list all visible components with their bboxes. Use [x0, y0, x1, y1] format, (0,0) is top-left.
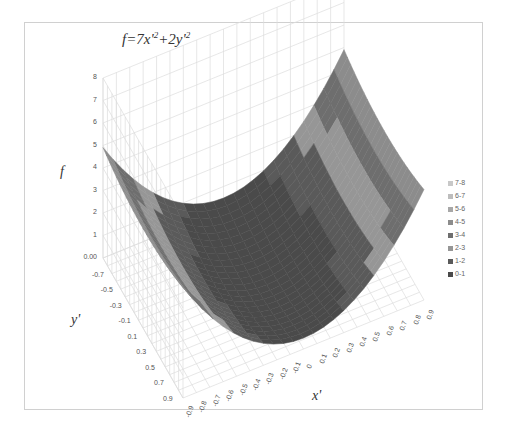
legend-item: 6-7: [448, 189, 465, 202]
legend-swatch: [448, 259, 453, 264]
z-tick: 3: [83, 186, 97, 193]
y-tick: -0.7: [92, 271, 104, 278]
legend-label: 7-8: [455, 179, 465, 186]
legend-swatch: [448, 181, 453, 186]
z-tick: 4: [83, 163, 97, 170]
z-tick: 1: [83, 231, 97, 238]
legend-label: 1-2: [455, 257, 465, 264]
y-tick: 0.5: [145, 364, 155, 371]
legend-item: 4-5: [448, 215, 465, 228]
legend-item: 0-1: [448, 267, 465, 280]
y-tick: -0.5: [101, 286, 113, 293]
z-tick: 8: [83, 73, 97, 80]
legend-label: 3-4: [455, 231, 465, 238]
legend-swatch: [448, 246, 453, 251]
legend-swatch: [448, 194, 453, 199]
z-tick: 5: [83, 141, 97, 148]
legend-item: 1-2: [448, 254, 465, 267]
y-tick: -0.1: [119, 317, 131, 324]
y-tick: 0.3: [136, 348, 146, 355]
z-tick: 2: [83, 208, 97, 215]
legend-label: 0-1: [455, 270, 465, 277]
legend-swatch: [448, 207, 453, 212]
z-tick: 6: [83, 118, 97, 125]
legend-item: 2-3: [448, 241, 465, 254]
legend-item: 3-4: [448, 228, 465, 241]
x-axis-label: x': [312, 388, 321, 404]
chart-legend: 7-86-75-64-53-42-31-20-1: [448, 176, 465, 280]
surface-plot: [0, 0, 508, 433]
y-tick: -0.3: [110, 302, 122, 309]
y-tick: 0.1: [127, 333, 137, 340]
legend-swatch: [448, 220, 453, 225]
z-axis-label: f: [60, 164, 64, 180]
legend-item: 7-8: [448, 176, 465, 189]
z-tick: 0.00: [83, 253, 97, 260]
y-axis-label: y': [71, 312, 80, 328]
legend-label: 4-5: [455, 218, 465, 225]
legend-swatch: [448, 233, 453, 238]
legend-swatch: [448, 272, 453, 277]
y-tick: 0.7: [154, 379, 164, 386]
legend-label: 2-3: [455, 244, 465, 251]
legend-item: 5-6: [448, 202, 465, 215]
legend-label: 6-7: [455, 192, 465, 199]
y-tick: 0.9: [163, 395, 173, 402]
legend-label: 5-6: [455, 205, 465, 212]
z-tick: 7: [83, 96, 97, 103]
